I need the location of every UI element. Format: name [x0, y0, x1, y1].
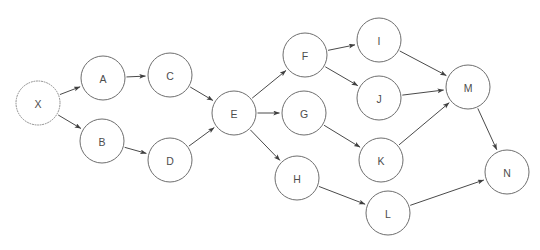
node-label-n: N: [503, 167, 511, 179]
edge-f-to-j: [325, 67, 358, 86]
edge-j-to-m: [402, 90, 443, 95]
figure-caption: [0, 243, 540, 250]
node-f[interactable]: F: [283, 33, 327, 77]
node-label-d: D: [166, 155, 174, 167]
edge-d-to-e: [189, 128, 214, 147]
node-m[interactable]: M: [446, 65, 490, 109]
edge-k-to-m: [399, 103, 449, 145]
edge-b-to-d: [125, 147, 147, 153]
node-label-l: L: [385, 208, 391, 220]
node-label-m: M: [464, 82, 473, 94]
edge-h-to-l: [319, 186, 365, 204]
node-j[interactable]: J: [357, 76, 401, 120]
node-l[interactable]: L: [366, 191, 410, 235]
edge-c-to-e: [190, 87, 213, 100]
node-label-k: K: [377, 155, 384, 167]
node-g[interactable]: G: [282, 91, 326, 135]
node-label-h: H: [293, 173, 301, 185]
node-label-b: B: [98, 136, 105, 148]
node-d[interactable]: D: [148, 138, 192, 182]
node-label-i: I: [378, 35, 381, 47]
node-a[interactable]: A: [81, 56, 125, 100]
edge-e-to-f: [252, 71, 286, 99]
node-label-c: C: [166, 70, 174, 82]
node-b[interactable]: B: [80, 119, 124, 163]
diagram-canvas: XABCDEFGHIJKLMN: [0, 0, 540, 250]
graph-svg: XABCDEFGHIJKLMN: [0, 0, 540, 250]
nodes-layer: XABCDEFGHIJKLMN: [16, 18, 529, 235]
node-label-a: A: [99, 73, 106, 85]
edge-f-to-i: [328, 45, 355, 50]
edge-g-to-k: [324, 125, 360, 147]
edge-a-to-c: [126, 76, 145, 77]
node-label-x: X: [34, 98, 41, 110]
edge-l-to-n: [410, 180, 484, 205]
node-label-g: G: [300, 108, 308, 120]
node-c[interactable]: C: [148, 53, 192, 97]
edge-m-to-n: [478, 108, 497, 149]
node-x[interactable]: X: [16, 81, 60, 125]
node-n[interactable]: N: [485, 150, 529, 194]
node-label-f: F: [302, 50, 308, 62]
node-label-e: E: [230, 108, 237, 120]
node-e[interactable]: E: [212, 91, 256, 135]
edge-i-to-m: [400, 51, 447, 76]
edge-e-to-h: [250, 130, 280, 161]
node-h[interactable]: H: [275, 156, 319, 200]
node-i[interactable]: I: [357, 18, 401, 62]
edge-x-to-a: [60, 87, 80, 95]
node-label-j: J: [376, 93, 381, 105]
edge-x-to-b: [58, 115, 81, 128]
node-k[interactable]: K: [359, 138, 403, 182]
